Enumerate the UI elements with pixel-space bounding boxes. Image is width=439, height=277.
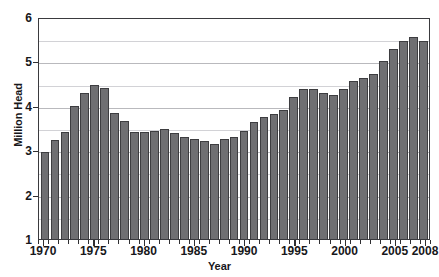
bar-2004 — [379, 61, 388, 239]
bar-1996 — [299, 89, 308, 240]
bar-1998 — [319, 93, 328, 240]
y-tick-label-5: 5 — [12, 57, 32, 67]
bar-1978 — [120, 121, 129, 240]
x-tick-label-1970: 1970 — [21, 244, 65, 258]
x-tick-label-1990: 1990 — [222, 244, 266, 258]
x-tick-label-2000: 2000 — [323, 244, 367, 258]
bar-1995 — [289, 97, 298, 240]
bar-2007 — [409, 37, 418, 239]
bar-2001 — [349, 81, 358, 240]
x-tick-label-1995: 1995 — [272, 244, 316, 258]
y-tick-label-4: 4 — [12, 102, 32, 112]
bar-1999 — [329, 95, 338, 239]
bar-1985 — [190, 139, 199, 239]
bar-1994 — [279, 110, 288, 239]
bar-1986 — [200, 141, 209, 239]
bar-series — [39, 19, 429, 239]
bar-2008 — [419, 41, 428, 240]
bar-chart-figure: Million Head 123456 19701975198019851990… — [0, 0, 439, 277]
bar-1977 — [110, 113, 119, 239]
bar-1976 — [100, 88, 109, 239]
bar-1991 — [250, 122, 259, 239]
x-axis-title: Year — [0, 260, 439, 272]
bar-1984 — [180, 137, 189, 239]
x-tick-label-1980: 1980 — [122, 244, 166, 258]
bar-1983 — [170, 133, 179, 239]
bar-2000 — [339, 89, 348, 240]
bar-1988 — [220, 139, 229, 239]
bar-1993 — [270, 114, 279, 239]
bar-2005 — [389, 49, 398, 239]
bar-1997 — [309, 89, 318, 240]
bar-1973 — [70, 106, 79, 239]
y-tick-label-3: 3 — [12, 146, 32, 156]
bar-1989 — [230, 137, 239, 239]
bar-2006 — [399, 41, 408, 239]
bar-1975 — [90, 85, 99, 239]
y-axis-tick-labels: 123456 — [10, 0, 32, 277]
bar-1990 — [240, 131, 249, 239]
x-tick-label-1975: 1975 — [71, 244, 115, 258]
bar-1992 — [260, 117, 269, 239]
y-tick-label-6: 6 — [12, 13, 32, 23]
y-tick-label-2: 2 — [12, 191, 32, 201]
bar-1974 — [80, 93, 89, 240]
bar-1970 — [41, 152, 50, 239]
x-axis-tick-labels: 197019751980198519901995200020052008 — [0, 244, 439, 260]
bar-1987 — [210, 144, 219, 240]
x-tick-label-2008: 2008 — [403, 244, 439, 258]
bar-1981 — [150, 131, 159, 239]
bar-1972 — [61, 132, 70, 239]
plot-area — [38, 18, 430, 240]
x-tick-label-1985: 1985 — [172, 244, 216, 258]
bar-1971 — [51, 140, 60, 239]
bar-1979 — [130, 132, 139, 239]
bar-1982 — [160, 129, 169, 239]
bar-2002 — [359, 78, 368, 239]
bar-1980 — [140, 132, 149, 239]
chart-title-cropped — [95, 0, 265, 1]
bar-2003 — [369, 74, 378, 239]
